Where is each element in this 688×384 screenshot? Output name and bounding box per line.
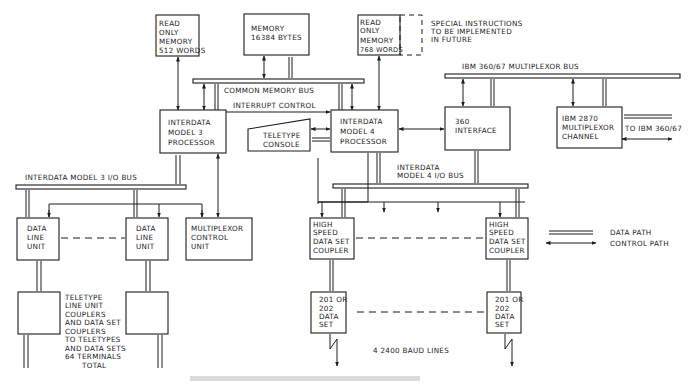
dlu-line: UNIT — [136, 242, 155, 251]
multiplexor-control-unit: MULTIPLEXOR CONTROL UNIT — [186, 218, 252, 260]
system-block-diagram: READ ONLY MEMORY 512 WORDS MEMORY 16384 … — [0, 0, 688, 384]
model4-io-bus-label: MODEL 4 I/O BUS — [397, 171, 464, 180]
data-path-symbol — [549, 231, 593, 234]
legend-control-path: CONTROL PATH — [610, 239, 669, 248]
comm-line-1 — [330, 334, 337, 352]
ibm2870-line: MULTIPLEXOR — [562, 123, 614, 132]
360-interface-block: 360 INTERFACE — [445, 107, 510, 150]
model3-io-bus — [16, 185, 186, 189]
model3-line: MODEL 3 — [168, 128, 203, 137]
ibm2870-line: IBM 2870 — [562, 114, 598, 123]
data-set-1: 201 OR 202 DATA SET — [311, 292, 347, 333]
dlu-line: DATA — [27, 224, 47, 233]
memory-block: MEMORY 16384 BYTES — [244, 14, 309, 55]
mcu-line: CONTROL — [191, 233, 228, 242]
baud-lines-label: 4 2400 BAUD LINES — [373, 346, 449, 355]
common-memory-bus-label: COMMON MEMORY BUS — [224, 86, 314, 95]
ibm-multiplexor-bus — [445, 74, 680, 78]
console-line: CONSOLE — [263, 140, 300, 149]
model3-line: PROCESSOR — [168, 138, 215, 147]
hsdsc-line: DATA SET — [489, 237, 526, 246]
dlu-line: UNIT — [27, 242, 46, 251]
console-line: TELETYPE — [262, 131, 301, 140]
dlu-line: LINE — [136, 233, 153, 242]
data-line-unit-2: DATA LINE UNIT — [126, 218, 168, 260]
legend: DATA PATH CONTROL PATH — [546, 228, 669, 248]
model4-line: MODEL 4 — [340, 127, 375, 136]
memory-line: 16384 BYTES — [251, 33, 302, 42]
high-speed-coupler-2: HIGH SPEED DATA SET COUPLER — [486, 218, 528, 259]
model3-line: INTERDATA — [168, 118, 211, 127]
rom768-line: MEMORY — [360, 36, 394, 45]
model4-line: PROCESSOR — [340, 137, 387, 146]
legend-data-path: DATA PATH — [610, 228, 652, 237]
interface-line: INTERFACE — [455, 126, 497, 135]
special-instructions-note: SPECIAL INSTRUCTIONS TO BE IMPLEMENTED I… — [430, 19, 523, 44]
hsdsc-line: COUPLER — [313, 246, 349, 255]
ds-line: SET — [495, 320, 510, 329]
hsdsc-line: COUPLER — [489, 246, 525, 255]
note-line: TO TELETYPES — [64, 335, 121, 344]
dlu-line: DATA — [136, 224, 156, 233]
hsdsc-line: SPEED — [489, 228, 514, 237]
mcu-line: UNIT — [191, 242, 210, 251]
rom512-line: 512 WORDS — [159, 46, 206, 55]
rom768-line: ONLY — [360, 26, 380, 35]
ibm2870-line: CHANNEL — [562, 132, 599, 141]
note-line: AND DATA SET — [65, 318, 121, 327]
coupler-box-1 — [18, 292, 60, 334]
note-line: LINE UNIT — [65, 301, 103, 310]
ds-line: 201 OR — [495, 295, 523, 304]
interface-line: 360 — [455, 117, 470, 126]
rom512-line: ONLY — [159, 28, 179, 37]
model4-io-bus — [333, 184, 528, 188]
interrupt-control-label: INTERRUPT CONTROL — [233, 101, 316, 110]
teletype-console-block: TELETYPE CONSOLE — [248, 119, 310, 151]
rom512-line: READ — [159, 19, 180, 28]
model4-processor-block: INTERDATA MODEL 4 PROCESSOR — [331, 110, 398, 152]
rom-512-block: READ ONLY MEMORY 512 WORDS — [156, 15, 206, 56]
memory-line: MEMORY — [251, 24, 285, 33]
coupler-box-2 — [126, 292, 168, 334]
ds-line: 201 OR — [319, 295, 347, 304]
dlu-line: LINE — [27, 233, 44, 242]
note-line: TOTAL — [81, 361, 106, 370]
hsdsc-line: DATA SET — [313, 237, 350, 246]
couplers-note: TELETYPE LINE UNIT COUPLERS AND DATA SET… — [64, 293, 126, 370]
note-line: IN FUTURE — [431, 35, 472, 44]
ibm-mux-bus-label: IBM 360/67 MULTIPLEXOR BUS — [462, 62, 579, 71]
model3-io-bus-label: INTERDATA MODEL 3 I/O BUS — [25, 173, 137, 182]
hsdsc-line: SPEED — [313, 228, 338, 237]
model3-processor-block: INTERDATA MODEL 3 PROCESSOR — [160, 110, 226, 153]
rom768-line: 768 WORDS — [360, 46, 403, 54]
ds-line: SET — [319, 320, 334, 329]
mcu-line: MULTIPLEXOR — [191, 224, 243, 233]
data-set-2: 201 OR 202 DATA SET — [487, 292, 523, 333]
comm-line-2 — [505, 334, 512, 352]
model4-line: INTERDATA — [340, 117, 383, 126]
note-line: 64 TERMINALS — [65, 352, 121, 361]
figure-caption — [190, 376, 420, 381]
rom-768-block: READ ONLY MEMORY 768 WORDS — [358, 15, 422, 55]
common-memory-bus — [193, 79, 364, 83]
rom512-line: MEMORY — [159, 37, 193, 46]
ibm-2870-channel-block: IBM 2870 MULTIPLEXOR CHANNEL — [557, 107, 622, 148]
high-speed-coupler-1: HIGH SPEED DATA SET COUPLER — [310, 218, 354, 259]
data-line-unit-1: DATA LINE UNIT — [17, 218, 59, 260]
to-ibm-label: TO IBM 360/67 — [624, 124, 682, 133]
